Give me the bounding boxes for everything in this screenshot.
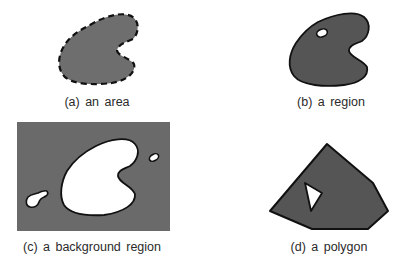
panel-a-area (59, 14, 138, 84)
caption-a: (a) an area (64, 95, 129, 109)
area-shape (59, 14, 138, 84)
panel-b-region (290, 13, 369, 85)
polygon-shape (270, 144, 388, 229)
figure-canvas (0, 0, 409, 266)
caption-d: (d) a polygon (291, 240, 368, 254)
panel-c-background-region (17, 122, 170, 231)
caption-c: (c) a background region (23, 240, 161, 254)
panel-d-polygon (270, 144, 388, 229)
caption-b: (b) a region (297, 95, 365, 109)
region-shape (290, 13, 369, 85)
